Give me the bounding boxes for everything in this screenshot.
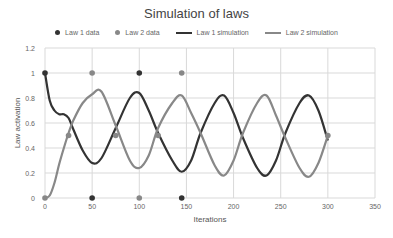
x-tick-label: 50 <box>88 203 96 210</box>
x-tick-label: 150 <box>181 203 193 210</box>
x-tick-label: 350 <box>369 203 381 210</box>
y-tick-label: 0.4 <box>25 145 35 152</box>
x-tick-label: 250 <box>275 203 287 210</box>
x-tick-label: 300 <box>322 203 334 210</box>
y-tick-label: 1.2 <box>25 45 35 52</box>
plot-area: 05010015020025030035000.20.40.60.811.2It… <box>0 0 393 238</box>
x-tick-label: 200 <box>228 203 240 210</box>
data-point-law-1-data <box>42 70 48 76</box>
data-point-law-1-data <box>136 70 142 76</box>
x-axis-label: Iterations <box>194 215 227 224</box>
y-tick-label: 0 <box>31 195 35 202</box>
data-point-law-2-data <box>113 133 119 139</box>
data-point-law-2-data <box>66 133 72 139</box>
x-tick-label: 0 <box>43 203 47 210</box>
data-point-law-2-data <box>42 195 48 201</box>
data-point-law-2-data <box>136 195 142 201</box>
y-tick-label: 0.8 <box>25 95 35 102</box>
data-point-law-2-data <box>89 70 95 76</box>
data-point-law-2-data <box>179 70 185 76</box>
data-point-law-1-data <box>89 195 95 201</box>
y-tick-label: 1 <box>31 70 35 77</box>
x-tick-label: 100 <box>133 203 145 210</box>
y-tick-label: 0.6 <box>25 120 35 127</box>
data-point-law-1-data <box>179 195 185 201</box>
data-point-law-2-data <box>325 133 331 139</box>
data-point-law-2-data <box>155 133 161 139</box>
y-tick-label: 0.2 <box>25 170 35 177</box>
y-axis-label: Law activation <box>13 98 22 149</box>
